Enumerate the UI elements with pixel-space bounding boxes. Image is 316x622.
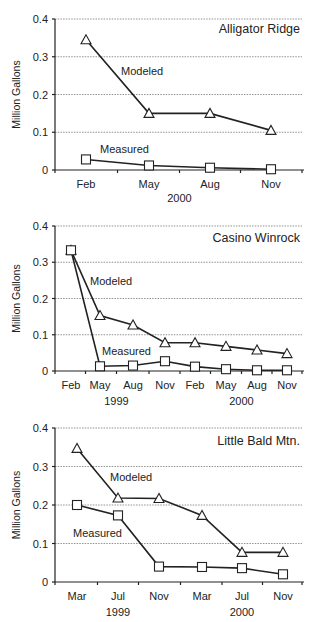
y-tick-label: 0.2: [33, 89, 48, 101]
y-tick-label: 0.4: [33, 13, 48, 25]
square-marker: [253, 366, 262, 375]
series-label: Modeled: [121, 65, 163, 77]
square-marker: [191, 362, 200, 371]
x-category-label: Nov: [277, 379, 297, 391]
square-marker: [129, 361, 138, 370]
y-tick-label: 0.3: [33, 461, 48, 473]
square-marker: [114, 511, 123, 520]
square-marker: [161, 357, 170, 366]
square-marker: [73, 501, 82, 510]
x-category-label: Nov: [261, 178, 281, 190]
series-label: Measured: [73, 527, 122, 539]
y-tick-label: 0: [42, 365, 48, 377]
series-label: Modeled: [110, 471, 152, 483]
chart-title: Alligator Ridge: [219, 22, 300, 36]
y-tick-label: 0.3: [33, 256, 48, 268]
y-axis-label: Million Gallons: [10, 471, 22, 539]
square-marker: [96, 362, 105, 371]
figure: 00.10.20.30.4FebMayAugNov2000Million Gal…: [0, 0, 316, 622]
x-category-label: May: [90, 379, 111, 391]
y-tick-label: 0: [42, 576, 48, 588]
y-tick-label: 0.2: [33, 499, 48, 511]
chart-title: Little Bald Mtn.: [217, 434, 300, 448]
series-measured: Measured: [73, 501, 288, 579]
chart-casino-winrock: 00.10.20.30.4FebMayAugNovFebMayAugNov199…: [0, 205, 316, 415]
series-label: Modeled: [90, 275, 132, 287]
x-category-label: May: [139, 178, 160, 190]
square-marker: [222, 365, 231, 374]
y-tick-label: 0.4: [33, 220, 48, 232]
triangle-marker: [95, 311, 105, 320]
series-line: [86, 40, 271, 131]
series-label: Measured: [100, 143, 149, 155]
y-tick-label: 0.1: [33, 126, 48, 138]
series-label: Measured: [102, 345, 151, 357]
x-category-label: Feb: [186, 379, 205, 391]
y-tick-label: 0.3: [33, 51, 48, 63]
y-tick-label: 0.1: [33, 538, 48, 550]
x-category-label: Nov: [149, 590, 169, 602]
square-marker: [283, 366, 292, 375]
x-category-label: Aug: [123, 379, 143, 391]
series-modeled: Modeled: [81, 35, 276, 135]
y-tick-label: 0.2: [33, 293, 48, 305]
chart-little-bald-mtn: 00.10.20.30.4MarJulNovMarJulNov19992000M…: [0, 415, 316, 622]
x-category-label: Mar: [68, 590, 87, 602]
square-marker: [67, 246, 76, 255]
year-label: 1999: [104, 395, 128, 407]
y-axis-label: Million Gallons: [10, 264, 22, 332]
y-tick-label: 0: [42, 164, 48, 176]
square-marker: [267, 165, 276, 174]
x-category-label: Aug: [200, 178, 220, 190]
square-marker: [279, 570, 288, 579]
x-category-label: Nov: [273, 590, 293, 602]
square-marker: [145, 161, 154, 170]
chart-alligator-ridge: 00.10.20.30.4FebMayAugNov2000Million Gal…: [0, 0, 316, 205]
series-modeled: Modeled: [72, 443, 288, 556]
series-line: [71, 250, 287, 353]
year-label: 2000: [167, 192, 191, 204]
chart-title: Casino Winrock: [212, 231, 300, 245]
year-label: 2000: [230, 606, 254, 618]
x-category-label: Feb: [62, 379, 81, 391]
triangle-marker: [81, 35, 91, 44]
y-tick-label: 0.1: [33, 329, 48, 341]
series-line: [86, 159, 271, 169]
y-tick-label: 0.4: [33, 422, 48, 434]
x-category-label: Mar: [193, 590, 212, 602]
square-marker: [155, 562, 164, 571]
x-category-label: Nov: [155, 379, 175, 391]
square-marker: [82, 155, 91, 164]
y-axis-label: Million Gallons: [10, 60, 22, 128]
series-measured: Measured: [82, 143, 276, 174]
triangle-marker: [197, 510, 207, 519]
year-label: 1999: [106, 606, 130, 618]
triangle-marker: [72, 443, 82, 452]
x-category-label: Jul: [111, 590, 125, 602]
series-line: [77, 505, 283, 574]
square-marker: [198, 562, 207, 571]
square-marker: [206, 163, 215, 172]
square-marker: [238, 564, 247, 573]
x-category-label: Feb: [77, 178, 96, 190]
year-label: 2000: [229, 395, 253, 407]
x-category-label: May: [216, 379, 237, 391]
x-category-label: Jul: [235, 590, 249, 602]
x-category-label: Aug: [247, 379, 267, 391]
